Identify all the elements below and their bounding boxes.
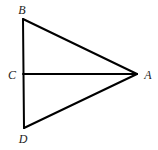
geometry-diagram: B C A D <box>0 0 158 150</box>
segment-da <box>24 74 137 128</box>
label-d: D <box>18 132 28 146</box>
label-b: B <box>18 3 26 17</box>
triangle-figure: B C A D <box>0 0 158 150</box>
label-a: A <box>143 68 152 82</box>
segment-ba <box>23 19 137 74</box>
label-c: C <box>8 68 17 82</box>
